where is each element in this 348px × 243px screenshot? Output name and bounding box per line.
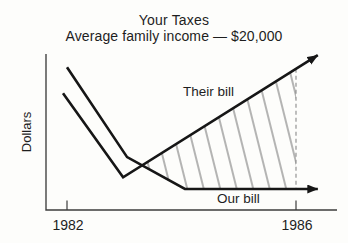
- series-label-their-bill: Their bill: [183, 84, 234, 99]
- x-tick-label-1986: 1986: [281, 217, 312, 233]
- chart-subtitle: Average family income — $20,000: [0, 29, 348, 44]
- x-tick-label-1982: 1982: [52, 217, 83, 233]
- chart-title: Your Taxes: [0, 13, 348, 28]
- series-label-our-bill: Our bill: [217, 191, 260, 206]
- y-axis-label: Dollars: [19, 112, 34, 152]
- tax-chart-figure: 19821986 Your Taxes Average family incom…: [0, 0, 348, 243]
